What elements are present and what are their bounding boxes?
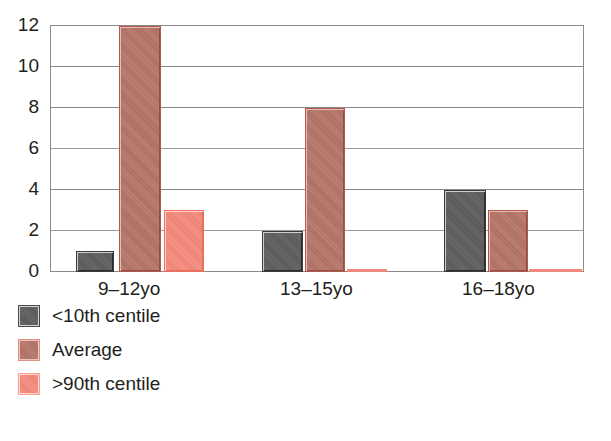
x-axis-label-16-18yo: 16–18yo bbox=[462, 277, 535, 300]
y-axis-tick-0: 0 bbox=[28, 261, 39, 280]
grouped-bar-chart: 12 10 8 6 4 2 0 9–12yo 13–15yo bbox=[0, 0, 611, 441]
bar-9-12yo-high-centile bbox=[164, 210, 204, 272]
salmon-swatch-icon bbox=[18, 373, 40, 395]
legend-label-average: Average bbox=[52, 339, 122, 361]
bar-16-18yo-low-centile bbox=[444, 190, 486, 272]
bar-13-15yo-high-centile bbox=[347, 269, 387, 272]
legend-item-high-centile: >90th centile bbox=[18, 367, 338, 401]
y-axis-tick-8: 8 bbox=[28, 97, 39, 116]
dark-gray-swatch-icon bbox=[18, 305, 40, 327]
bar-9-12yo-low-centile bbox=[76, 251, 114, 272]
bars-layer bbox=[50, 25, 584, 272]
brown-swatch-icon bbox=[18, 339, 40, 361]
y-axis-tick-12: 12 bbox=[18, 15, 39, 34]
bar-13-15yo-average bbox=[305, 108, 345, 272]
legend-item-average: Average bbox=[18, 333, 338, 367]
y-axis-tick-4: 4 bbox=[28, 179, 39, 198]
bar-13-15yo-low-centile bbox=[262, 231, 303, 272]
y-axis-tick-2: 2 bbox=[28, 220, 39, 239]
legend-item-low-centile: <10th centile bbox=[18, 299, 338, 333]
bar-9-12yo-average bbox=[119, 26, 161, 272]
y-axis-tick-10: 10 bbox=[18, 56, 39, 75]
legend-label-high-centile: >90th centile bbox=[52, 373, 160, 395]
y-axis: 12 10 8 6 4 2 0 bbox=[0, 0, 48, 272]
x-axis-label-13-15yo: 13–15yo bbox=[280, 277, 353, 300]
y-axis-tick-6: 6 bbox=[28, 138, 39, 157]
bar-16-18yo-high-centile bbox=[529, 269, 582, 272]
x-axis-label-9-12yo: 9–12yo bbox=[98, 277, 160, 300]
chart-legend: <10th centile Average >90th centile bbox=[18, 299, 338, 401]
legend-label-low-centile: <10th centile bbox=[52, 305, 160, 327]
bar-16-18yo-average bbox=[488, 210, 528, 272]
